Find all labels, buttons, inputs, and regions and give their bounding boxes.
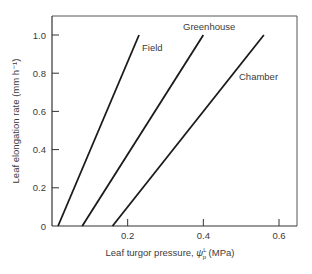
series-line-chamber [113, 35, 264, 226]
y-tick-label: 0 [41, 221, 46, 232]
x-axis-label: Leaf turgor pressure, ψLp (MPa) [106, 247, 235, 260]
x-tick-label: 0.4 [197, 230, 210, 241]
plot-frame [52, 16, 297, 226]
x-ticks: 0.20.40.6 [121, 219, 286, 241]
series-lines: FieldGreenhouseChamber [58, 21, 278, 226]
series-label-greenhouse: Greenhouse [183, 21, 235, 32]
y-axis-label: Leaf elongation rate (mm h⁻¹) [10, 59, 21, 184]
series-label-field: Field [142, 42, 163, 53]
y-tick-label: 0.8 [33, 68, 46, 79]
y-tick-label: 0.4 [33, 144, 46, 155]
series-label-chamber: Chamber [239, 71, 278, 82]
x-tick-label: 0.6 [272, 230, 285, 241]
x-tick-label: 0.2 [121, 230, 134, 241]
y-ticks: 00.20.40.60.81.0 [33, 30, 59, 232]
y-tick-label: 0.6 [33, 106, 46, 117]
series-line-field [58, 35, 139, 226]
y-tick-label: 0.2 [33, 182, 46, 193]
series-line-greenhouse [82, 35, 203, 226]
y-tick-label: 1.0 [33, 30, 46, 41]
line-chart: 00.20.40.60.81.0 0.20.40.6 FieldGreenhou… [0, 0, 312, 274]
